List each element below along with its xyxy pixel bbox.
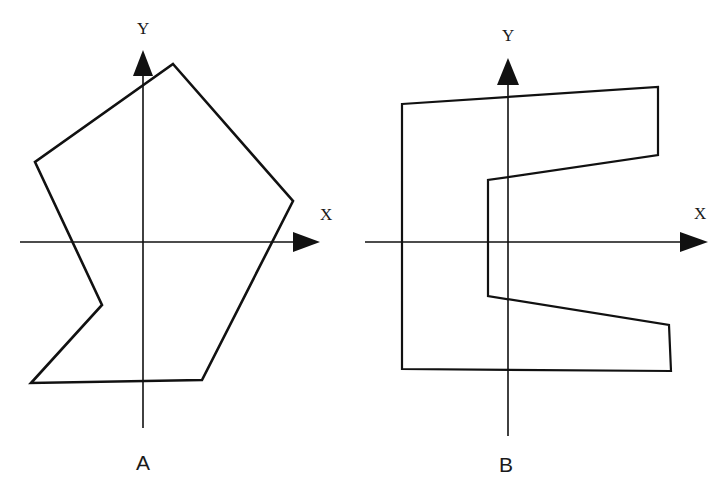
polygon-a	[31, 64, 293, 383]
x-axis-arrow-icon	[680, 232, 708, 252]
y-axis-label-b: Y	[502, 26, 514, 45]
x-axis-label-b: X	[694, 204, 706, 223]
x-axis-label-a: X	[320, 205, 332, 224]
diagram-canvas: Y X A Y X B	[0, 0, 728, 489]
y-axis-label-a: Y	[137, 19, 149, 38]
panel-a: Y X A	[20, 19, 332, 474]
y-axis-arrow-icon	[497, 58, 519, 85]
panel-b: Y X B	[365, 26, 708, 476]
y-axis-arrow-icon	[133, 50, 153, 76]
polygon-b	[402, 87, 671, 371]
panel-label-b: B	[499, 453, 513, 476]
x-axis-arrow-icon	[293, 232, 320, 252]
panel-label-a: A	[136, 451, 150, 474]
